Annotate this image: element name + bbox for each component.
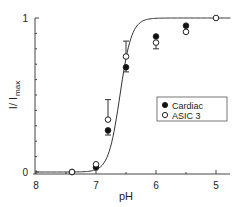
- legend-asic3-marker: [162, 112, 167, 117]
- fit-curve: [36, 18, 230, 172]
- cardiac-point: [183, 23, 189, 29]
- y-tick-label: 1: [22, 13, 28, 24]
- cardiac-point: [153, 34, 159, 40]
- x-tick-label: 6: [153, 180, 159, 191]
- cardiac-point: [123, 64, 129, 70]
- asic3-point: [123, 54, 129, 60]
- asic3-point: [69, 169, 75, 175]
- y-tick-label: 0: [22, 167, 28, 178]
- asic3-point: [183, 29, 189, 35]
- x-axis-label: pH: [119, 190, 133, 202]
- asic3-point: [105, 117, 111, 123]
- chart: 876501pHI/ Imax CardiacASIC 3: [0, 0, 243, 207]
- y-axis-label: I/ Imax: [7, 81, 22, 109]
- fit-curve-path: [36, 18, 230, 172]
- legend: CardiacASIC 3: [157, 97, 227, 121]
- asic3-point: [213, 15, 219, 21]
- legend-label: Cardiac: [172, 101, 204, 111]
- data-points: [69, 15, 219, 175]
- x-tick-label: 5: [213, 180, 219, 191]
- legend-label: ASIC 3: [172, 111, 201, 121]
- asic3-point: [93, 162, 99, 168]
- cardiac-point: [105, 128, 111, 134]
- asic3-point: [153, 40, 159, 46]
- x-tick-label: 8: [33, 180, 39, 191]
- legend-cardiac-marker: [162, 102, 167, 107]
- x-tick-label: 7: [93, 180, 99, 191]
